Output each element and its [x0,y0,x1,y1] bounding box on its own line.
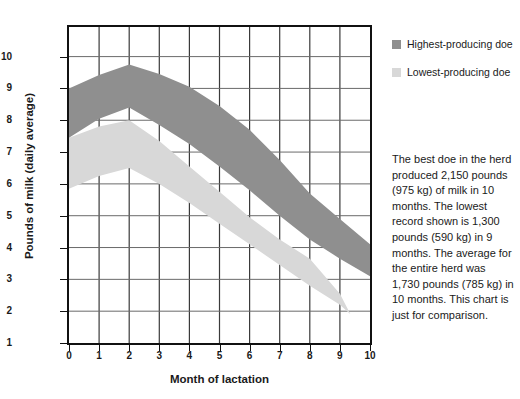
chart-screenshot: Pounds of milk (daily average) Month of … [0,0,520,399]
plot-area [67,25,372,345]
x-tick-mark [370,345,371,351]
x-tick-label: 7 [267,350,293,361]
x-tick-mark [69,345,70,351]
y-tick-mark [60,88,67,89]
y-tick-label: 4 [0,243,12,253]
x-tick-mark [129,345,130,351]
x-tick-label: 2 [116,350,142,361]
x-tick-mark [220,345,221,351]
x-tick-label: 1 [86,350,112,361]
legend-swatch-icon [392,40,401,49]
x-tick-mark [99,345,100,351]
x-tick-label: 3 [146,350,172,361]
x-tick-mark [250,345,251,351]
y-tick-mark [60,152,67,153]
y-axis-title: Pounds of milk (daily average) [23,71,35,281]
y-tick-label: 1 [0,338,12,348]
y-tick-label: 5 [0,211,12,221]
x-tick-label: 0 [56,350,82,361]
x-tick-mark [189,345,190,351]
y-tick-mark [60,279,67,280]
y-tick-label: 10 [0,52,12,62]
y-tick-label: 8 [0,115,12,125]
side-panel: Highest-producing doeLowest-producing do… [388,0,520,399]
y-tick-label: 9 [0,83,12,93]
chart-figure: Pounds of milk (daily average) Month of … [0,0,386,399]
y-tick-mark [60,248,67,249]
x-tick-label: 9 [327,350,353,361]
y-tick-label: 7 [0,147,12,157]
x-tick-label: 5 [207,350,233,361]
y-tick-label: 2 [0,306,12,316]
y-tick-label: 3 [0,274,12,284]
x-tick-mark [159,345,160,351]
y-tick-mark [60,311,67,312]
legend-swatch-icon [392,68,401,77]
explanatory-note: The best doe in the herd produced 2,150 … [392,152,516,324]
x-tick-mark [310,345,311,351]
legend-item: Highest-producing doe [392,38,520,50]
plot-canvas [69,27,370,343]
x-tick-label: 6 [237,350,263,361]
x-axis-title: Month of lactation [67,373,372,385]
y-tick-label: 6 [0,179,12,189]
x-tick-label: 8 [297,350,323,361]
legend-item: Lowest-producing doe [392,66,520,78]
y-tick-mark [60,343,67,344]
chart-legend: Highest-producing doeLowest-producing do… [392,38,520,94]
y-tick-mark [60,184,67,185]
x-tick-mark [280,345,281,351]
y-tick-mark [60,57,67,58]
legend-label: Highest-producing doe [407,38,513,50]
x-tick-label: 10 [357,350,383,361]
legend-label: Lowest-producing doe [407,66,510,78]
x-tick-mark [340,345,341,351]
y-tick-mark [60,216,67,217]
x-tick-label: 4 [176,350,202,361]
y-tick-mark [60,120,67,121]
